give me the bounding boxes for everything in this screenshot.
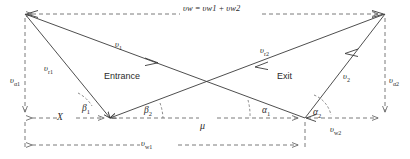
label-alpha1: α1	[262, 106, 270, 117]
vector-vr2-arrowhead	[255, 62, 268, 70]
label-v-w1: υw1	[141, 139, 152, 150]
label-v-2: υ2	[343, 72, 350, 83]
label-beta2: β2	[144, 106, 152, 117]
angle-arc-beta2	[160, 103, 163, 118]
label-v-r2: υr2	[260, 46, 269, 57]
label-alpha2: α2	[313, 108, 321, 119]
angle-arc-alpha1	[248, 100, 250, 118]
label-entrance: Entrance	[104, 72, 140, 81]
label-vw-equation-text: υw = υw1 + υw2	[183, 3, 240, 13]
label-x-offset: X	[57, 113, 63, 123]
label-v-w2: υw2	[330, 125, 341, 136]
label-vw-equation: υw = υw1 + υw2	[183, 4, 240, 13]
label-exit: Exit	[277, 72, 292, 81]
label-beta1: β1	[82, 104, 90, 115]
label-v-alpha1: υα1	[10, 76, 20, 87]
label-v-r1: υr1	[44, 64, 53, 75]
vector-v1-arrowhead	[145, 58, 158, 66]
velocity-vector-diagram: υw = υw1 + υw2 υα1 υα2 υr1 υr2 υ1 υ2 X μ…	[0, 0, 410, 159]
vector-v2-arrowhead	[345, 49, 358, 57]
label-mu: μ	[200, 121, 205, 131]
label-v-1: υ1	[115, 40, 122, 51]
label-v-alpha2: υα2	[389, 76, 399, 87]
vector-vr2	[110, 14, 385, 118]
